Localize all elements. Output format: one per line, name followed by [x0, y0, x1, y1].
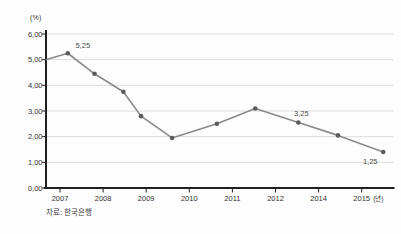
- data-point-marker: [253, 106, 258, 111]
- y-axis-tick-label: 2,00: [28, 132, 43, 141]
- data-point-marker: [92, 71, 97, 76]
- data-line: [46, 53, 383, 152]
- data-point-marker: [65, 51, 70, 56]
- y-axis-tick-label: 0,00: [28, 184, 43, 193]
- x-axis-unit-label: (년): [373, 194, 383, 203]
- y-axis-tick-label: 3,00: [28, 107, 43, 116]
- y-axis-tick-label: 1,00: [28, 158, 43, 167]
- x-axis-tick-label: 2008: [95, 194, 112, 203]
- y-axis-tick-label: 6,00: [28, 30, 43, 39]
- data-point-marker: [336, 133, 341, 138]
- y-axis-tick-label: 5,00: [28, 55, 43, 64]
- source-note: 자료: 한국은행: [46, 206, 92, 217]
- chart-page: (%) 0,001,002,003,004,005,006,0020072008…: [0, 0, 401, 234]
- data-point-label: 1,25: [363, 157, 378, 166]
- data-point-marker: [121, 89, 126, 94]
- x-axis-tick-label: 2014: [310, 194, 327, 203]
- data-point-label: 5,25: [75, 41, 90, 50]
- y-axis-tick-label: 4,00: [28, 81, 43, 90]
- data-point-marker: [215, 122, 220, 127]
- interest-rate-line-chart: 0,001,002,003,004,005,006,00200720082009…: [0, 0, 401, 234]
- x-axis-tick-label: 2009: [138, 194, 155, 203]
- data-point-label: 3,25: [294, 109, 309, 118]
- x-axis-tick-label: 2015: [353, 194, 370, 203]
- x-axis-tick-label: 2007: [52, 194, 69, 203]
- x-axis-tick-label: 2010: [181, 194, 198, 203]
- data-point-marker: [139, 114, 144, 119]
- data-point-marker: [381, 150, 386, 155]
- x-axis-tick-label: 2011: [224, 194, 240, 203]
- data-point-marker: [296, 120, 301, 125]
- x-axis-tick-label: 2012: [267, 194, 284, 203]
- data-point-marker: [170, 136, 175, 141]
